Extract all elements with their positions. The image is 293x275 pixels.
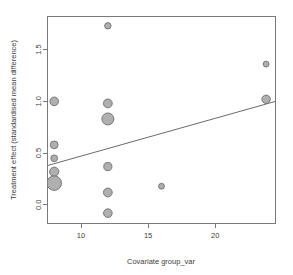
- data-point: [103, 99, 112, 108]
- data-point: [159, 183, 165, 189]
- data-point: [47, 176, 62, 191]
- x-axis-tick-label: 20: [211, 231, 219, 240]
- plot-canvas: 101520 0.00.51.01.5 Covariate group_var …: [0, 0, 293, 275]
- scatter-plot-figure: 101520 0.00.51.01.5 Covariate group_var …: [0, 0, 293, 275]
- data-point: [51, 155, 58, 162]
- x-axis-tick-label: 15: [144, 231, 152, 240]
- x-axis-tick-label: 10: [77, 231, 85, 240]
- data-point: [50, 141, 58, 149]
- data-point: [104, 209, 113, 218]
- data-point: [263, 61, 269, 67]
- data-point: [50, 167, 59, 176]
- data-point: [262, 95, 270, 103]
- y-axis-tick-label: 0.5: [34, 148, 43, 158]
- y-axis-tick-label: 0.0: [34, 200, 43, 210]
- data-point: [102, 113, 114, 125]
- data-point: [103, 188, 112, 197]
- data-point: [105, 23, 111, 29]
- data-point: [104, 162, 112, 170]
- y-axis-tick-label: 1.5: [34, 44, 43, 54]
- data-point: [50, 97, 59, 106]
- x-axis-title: Covariate group_var: [127, 257, 195, 266]
- y-axis-tick-label: 1.0: [34, 96, 43, 106]
- y-axis-title: Treatment effect (standardised mean diff…: [9, 40, 18, 200]
